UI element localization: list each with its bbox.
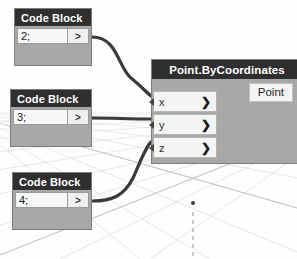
code-block-row-1[interactable]: 2; > — [17, 28, 89, 44]
code-block-input-2[interactable]: 3; — [13, 109, 67, 125]
port-connector-nub-y — [149, 121, 154, 129]
code-block-input-1[interactable]: 2; — [17, 28, 67, 44]
port-connector-nub-z — [149, 144, 154, 152]
output-port-point[interactable]: Point — [249, 83, 293, 102]
code-block-title-3: Code Block — [13, 173, 91, 190]
chevron-right-icon-x: ❯ — [201, 96, 216, 108]
code-block-input-3[interactable]: 4; — [15, 192, 67, 208]
input-port-z-label: z — [154, 142, 201, 154]
wire-codeblock2-to-y — [92, 118, 151, 119]
code-block-output-port-2[interactable]: > — [67, 109, 89, 125]
point-bycoordinates-node[interactable]: Point.ByCoordinates x ❯ y ❯ z ❯ Point — [151, 59, 297, 164]
code-block-filler-3 — [15, 209, 89, 227]
point-bycoordinates-title: Point.ByCoordinates — [152, 60, 297, 79]
code-block-title-2: Code Block — [11, 90, 91, 107]
input-port-x-label: x — [154, 96, 201, 108]
code-block-output-port-1[interactable]: > — [67, 28, 89, 44]
code-block-title-1: Code Block — [15, 9, 91, 26]
input-port-y-label: y — [154, 119, 201, 131]
port-connector-nub-x — [149, 98, 154, 106]
chevron-right-icon-y: ❯ — [201, 119, 216, 131]
code-block-filler-2 — [13, 126, 89, 144]
input-port-x[interactable]: x ❯ — [153, 91, 217, 112]
input-port-z[interactable]: z ❯ — [153, 137, 217, 158]
code-block-node-3[interactable]: Code Block 4; > — [12, 172, 92, 230]
code-block-output-port-3[interactable]: > — [67, 192, 89, 208]
code-block-row-3[interactable]: 4; > — [15, 192, 89, 208]
wire-codeblock1-to-x — [92, 37, 151, 96]
wire-codeblock3-to-z — [92, 142, 151, 201]
graph-canvas[interactable]: Code Block 2; > Code Block 3; > Code Blo… — [0, 0, 297, 259]
code-block-node-1[interactable]: Code Block 2; > — [14, 8, 92, 66]
chevron-right-icon-z: ❯ — [201, 142, 216, 154]
code-block-node-2[interactable]: Code Block 3; > — [10, 89, 92, 147]
point-bycoordinates-body: x ❯ y ❯ z ❯ Point — [152, 79, 297, 163]
code-block-filler-1 — [17, 45, 89, 63]
code-block-row-2[interactable]: 3; > — [13, 109, 89, 125]
input-port-y[interactable]: y ❯ — [153, 114, 217, 135]
